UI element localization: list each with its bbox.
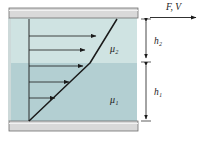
top-plate [9, 8, 138, 18]
mu-upper-label: μ₂ [109, 43, 119, 54]
h-lower-label: h₁ [154, 87, 162, 97]
force-velocity-label: F, V [165, 2, 182, 12]
mu-lower-label: μ₁ [109, 94, 119, 105]
left-wall [8, 18, 11, 121]
fluid-mechanics-figure: F, V μ₂ μ₁ h₂ h₁ [0, 0, 201, 141]
h-upper-label: h₂ [154, 36, 163, 46]
bottom-plate [9, 121, 138, 131]
